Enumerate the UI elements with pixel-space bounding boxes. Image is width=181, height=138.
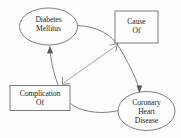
diagram-graphics [0, 0, 181, 138]
diagram-canvas: Diabetes Mellitus Cause Of Complication … [0, 0, 181, 138]
arrowhead-into-diabetes [47, 46, 53, 54]
node-cause-of[interactable] [115, 11, 158, 43]
edge-cause-complication [64, 46, 117, 84]
node-diabetes-mellitus[interactable] [20, 8, 78, 45]
node-coronary-heart-disease[interactable] [118, 92, 175, 131]
node-complication-of[interactable] [10, 86, 70, 111]
